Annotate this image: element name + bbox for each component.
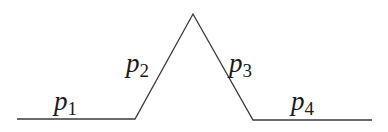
label-p3: p3 [227,48,252,81]
label-p2: p2 [124,48,149,81]
label-p1: p1 [52,86,77,119]
piecewise-path-diagram: p1 p2 p3 p4 [0,0,388,132]
label-p4: p4 [289,86,315,119]
